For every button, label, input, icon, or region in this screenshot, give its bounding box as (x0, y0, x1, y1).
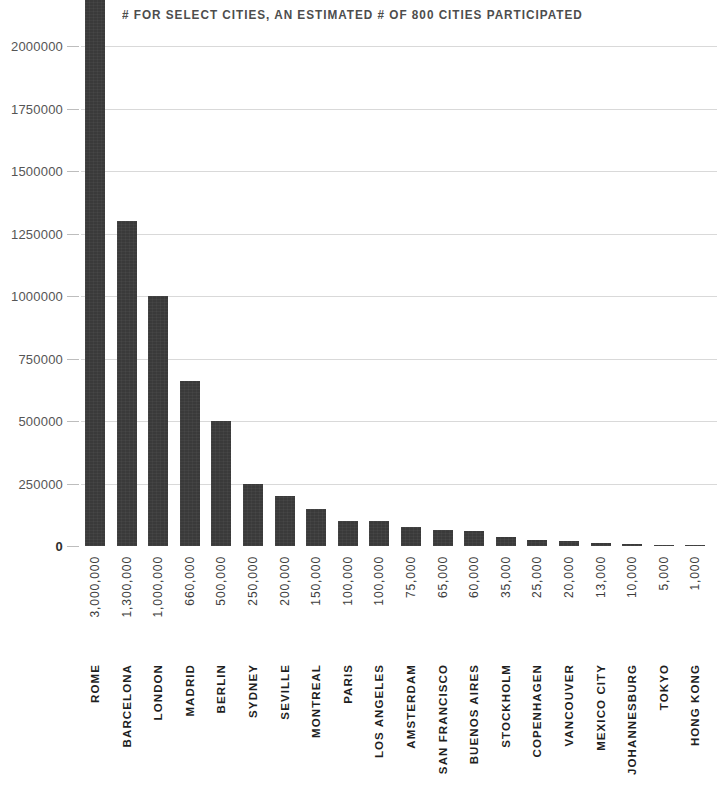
y-axis-tick-mark (67, 546, 79, 547)
gridline (81, 234, 717, 235)
bar-value-label: 250,000 (243, 556, 263, 606)
city-name-label: VANCOUVER (559, 664, 579, 747)
city-name-label-text: HONG KONG (689, 664, 701, 746)
city-name-label-text: BARCELONA (121, 664, 133, 747)
bar-value-label: 13,000 (591, 556, 611, 598)
gridline (81, 359, 717, 360)
y-axis-tick-label: 1500000 (11, 164, 63, 179)
city-name-label: LONDON (148, 664, 168, 720)
y-axis-tick-mark (67, 296, 79, 297)
bar-value-label: 3,000,000 (85, 556, 105, 618)
bar-value-label-text: 5,000 (657, 556, 671, 591)
gridline (81, 421, 717, 422)
city-name-label: BARCELONA (117, 664, 137, 747)
city-name-label: PARIS (338, 664, 358, 704)
city-name-label-text: MADRID (184, 664, 196, 717)
bar-value-label-text: 35,000 (499, 556, 513, 598)
bar-value-label: 660,000 (180, 556, 200, 606)
city-name-label-text: COPENHAGEN (531, 664, 543, 757)
y-axis-tick-label: 1000000 (11, 289, 63, 304)
bar (654, 545, 674, 546)
bar-value-label: 1,300,000 (117, 556, 137, 618)
bar (338, 521, 358, 546)
plot-area (81, 0, 717, 546)
bar-value-label-text: 25,000 (530, 556, 544, 598)
y-axis-tick-mark (67, 421, 79, 422)
bar-value-label: 65,000 (433, 556, 453, 598)
bar-value-label: 1,000 (685, 556, 705, 591)
bar (211, 421, 231, 546)
y-axis-tick-label: 1250000 (11, 226, 63, 241)
bar (464, 531, 484, 546)
bar-value-label: 500,000 (211, 556, 231, 606)
city-name-label-text: BERLIN (215, 664, 227, 713)
bar-value-label-text: 250,000 (246, 556, 260, 606)
city-name-label-text: SEVILLE (279, 664, 291, 720)
bar-value-label-text: 10,000 (625, 556, 639, 598)
city-name-label: SYDNEY (243, 664, 263, 718)
city-name-label-text: AMSTERDAM (405, 664, 417, 749)
city-name-label: MEXICO CITY (591, 664, 611, 751)
bar-value-label: 35,000 (496, 556, 516, 598)
city-name-label-text: LOS ANGELES (373, 664, 385, 758)
bar (369, 521, 389, 546)
gridline (81, 296, 717, 297)
y-axis-tick-mark (67, 46, 79, 47)
y-axis-tick-mark (67, 109, 79, 110)
x-axis-value-labels: 3,000,0001,300,0001,000,000660,000500,00… (81, 556, 717, 660)
city-name-label-text: BUENOS AIRES (468, 664, 480, 764)
city-name-label-text: VANCOUVER (563, 664, 575, 747)
gridline (81, 109, 717, 110)
bar-value-label: 20,000 (559, 556, 579, 598)
city-name-label: JOHANNESBURG (622, 664, 642, 775)
bar-value-label-text: 150,000 (309, 556, 323, 606)
bar-value-label-text: 200,000 (278, 556, 292, 606)
city-name-label: COPENHAGEN (527, 664, 547, 757)
gridline (81, 484, 717, 485)
bar-value-label-text: 1,000,000 (151, 556, 165, 618)
y-axis-tick-label: 2000000 (11, 39, 63, 54)
city-name-label: SAN FRANCISCO (433, 664, 453, 774)
y-axis-tick-mark (67, 171, 79, 172)
city-name-label-text: SAN FRANCISCO (437, 664, 449, 774)
bar (243, 484, 263, 547)
bar (433, 530, 453, 546)
y-axis-tick-mark (67, 484, 79, 485)
bar-value-label-text: 3,000,000 (88, 556, 102, 618)
bar-value-label: 10,000 (622, 556, 642, 598)
gridline (81, 171, 717, 172)
bar (85, 0, 105, 546)
city-name-label-text: TOKYO (658, 664, 670, 710)
bar-value-label: 75,000 (401, 556, 421, 598)
city-name-label-text: MEXICO CITY (595, 664, 607, 751)
bar-value-label-text: 13,000 (594, 556, 608, 598)
bar-value-label: 1,000,000 (148, 556, 168, 618)
city-name-label: SEVILLE (275, 664, 295, 720)
bar-value-label: 200,000 (275, 556, 295, 606)
bar-value-label-text: 660,000 (183, 556, 197, 606)
bar-value-label-text: 1,300,000 (120, 556, 134, 618)
city-name-label-text: LONDON (152, 664, 164, 720)
bar (180, 381, 200, 546)
city-name-label: LOS ANGELES (369, 664, 389, 758)
bar-value-label-text: 100,000 (372, 556, 386, 606)
city-name-label: AMSTERDAM (401, 664, 421, 749)
bar (117, 221, 137, 546)
city-name-label: STOCKHOLM (496, 664, 516, 748)
bar-value-label-text: 65,000 (436, 556, 450, 598)
x-axis-category-labels: ROMEBARCELONALONDONMADRIDBERLINSYDNEYSEV… (81, 664, 717, 789)
y-axis-tick-label: 0 (56, 539, 63, 554)
bar-value-label-text: 100,000 (341, 556, 355, 606)
bar (622, 544, 642, 547)
city-name-label: HONG KONG (685, 664, 705, 746)
bar (527, 540, 547, 546)
y-axis-tick-mark (67, 234, 79, 235)
bar-value-label: 100,000 (369, 556, 389, 606)
city-name-label-text: MONTREAL (310, 664, 322, 738)
city-name-label-text: ROME (89, 664, 101, 703)
bar (685, 545, 705, 546)
y-axis-tick-label: 250000 (18, 476, 63, 491)
bar-value-label: 5,000 (654, 556, 674, 591)
bar (401, 527, 421, 546)
city-name-label: BUENOS AIRES (464, 664, 484, 764)
